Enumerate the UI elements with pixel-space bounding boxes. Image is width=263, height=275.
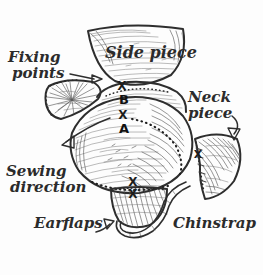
side-piece-label: Side piece bbox=[105, 43, 197, 62]
diagram-canvas: Side piece bbox=[0, 0, 263, 275]
hat-assembly-diagram: Side piece bbox=[0, 0, 263, 275]
fixing-point-x-top: X bbox=[117, 79, 127, 93]
reference-point-a: A bbox=[119, 121, 129, 136]
fixing-point-x-middle: X bbox=[118, 108, 128, 122]
sewing-direction-label-line2: direction bbox=[10, 178, 86, 196]
fixing-points-label-line2: points bbox=[12, 64, 65, 82]
earflaps-annotation: Earflaps bbox=[33, 214, 114, 232]
fixing-point-x-right: X bbox=[194, 148, 203, 161]
neck-piece-label-line2: piece bbox=[188, 104, 232, 122]
earflaps-label: Earflaps bbox=[33, 214, 103, 232]
chinstrap-annotation: Chinstrap bbox=[173, 214, 256, 232]
fixing-point-x-earflap: X bbox=[128, 187, 138, 201]
chinstrap-label: Chinstrap bbox=[173, 214, 256, 232]
reference-point-b: B bbox=[119, 92, 129, 107]
